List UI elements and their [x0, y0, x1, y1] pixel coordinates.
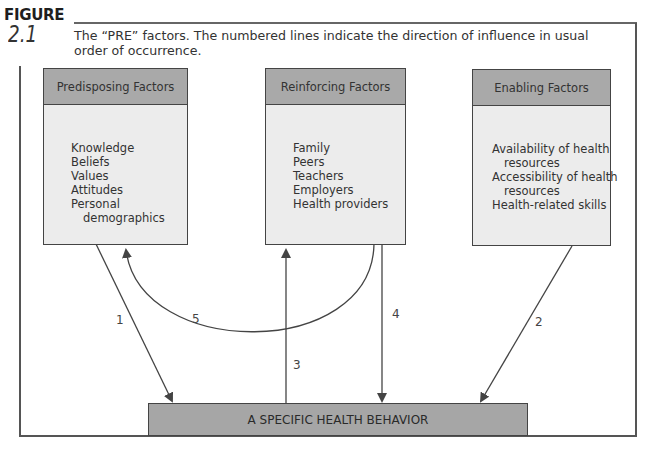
reinforcing-item: Family [293, 141, 405, 155]
health-behavior-box: A SPECIFIC HEALTH BEHAVIOR [148, 403, 528, 436]
predisposing-item: Knowledge [71, 141, 187, 155]
predisposing-item: demographics [71, 211, 187, 225]
reinforcing-item: Health providers [293, 197, 405, 211]
arrow-5-curve [126, 244, 374, 332]
arrow-1-label: 1 [116, 313, 124, 327]
reinforcing-item: Teachers [293, 169, 405, 183]
predisposing-item: Attitudes [71, 183, 187, 197]
predisposing-item: Values [71, 169, 187, 183]
arrow-1-line [96, 244, 172, 401]
arrow-2-line [481, 246, 572, 401]
predisposing-factors-box: Predisposing Factors Knowledge Beliefs V… [43, 68, 188, 245]
arrow-4-label: 4 [392, 307, 400, 321]
arrow-2-label: 2 [535, 315, 543, 329]
predisposing-factors-title: Predisposing Factors [44, 69, 187, 105]
arrow-3-label: 3 [293, 358, 301, 372]
enabling-factors-box: Enabling Factors Availability of health … [472, 69, 611, 246]
predisposing-item: Beliefs [71, 155, 187, 169]
enabling-factors-title: Enabling Factors [473, 70, 610, 106]
reinforcing-item: Peers [293, 155, 405, 169]
enabling-item: Health-related skills [492, 198, 610, 212]
reinforcing-item: Employers [293, 183, 405, 197]
reinforcing-factors-box: Reinforcing Factors Family Peers Teacher… [265, 68, 406, 245]
predisposing-item: Personal [71, 197, 187, 211]
enabling-item: Accessibility of health [492, 170, 610, 184]
enabling-item: resources [492, 156, 610, 170]
arrow-5-label: 5 [192, 312, 200, 326]
enabling-item: resources [492, 184, 610, 198]
enabling-item: Availability of health [492, 142, 610, 156]
reinforcing-factors-title: Reinforcing Factors [266, 69, 405, 105]
